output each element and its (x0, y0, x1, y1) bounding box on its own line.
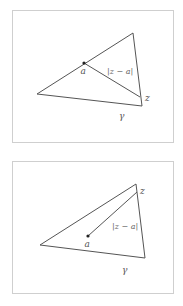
label-a-top: a (81, 66, 86, 76)
contour-gamma-bottom (40, 184, 145, 258)
figure-top: a |z − a| z γ (37, 33, 150, 121)
label-z-bottom: z (139, 186, 145, 196)
label-gamma-top: γ (119, 111, 125, 121)
label-distance-top: |z − a| (107, 67, 133, 76)
label-distance-bottom: |z − a| (112, 222, 138, 231)
diagram-canvas: a |z − a| z γ a |z − a| z γ (0, 0, 183, 306)
point-a-top (82, 61, 85, 64)
figure-bottom: a |z − a| z γ (40, 184, 145, 275)
point-a-bottom (86, 234, 89, 237)
label-a-bottom: a (85, 239, 90, 249)
label-gamma-bottom: γ (122, 265, 128, 275)
label-z-top: z (144, 93, 150, 103)
